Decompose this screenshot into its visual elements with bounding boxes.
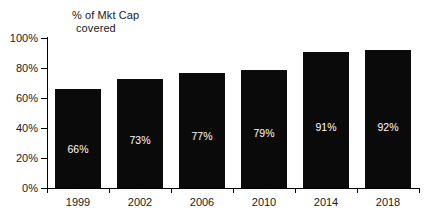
x-axis-tick: [295, 188, 296, 193]
x-axis-tick: [357, 188, 358, 193]
x-axis-label-2010: 2010: [252, 196, 276, 208]
chart-title-line-1: % of Mkt Cap: [72, 9, 139, 21]
bar-value-label: 73%: [117, 134, 163, 146]
y-axis-label: 60%: [0, 92, 38, 104]
y-axis-label: 80%: [0, 62, 38, 74]
chart-title: % of Mkt Cap covered: [72, 9, 139, 35]
x-axis-label-2014: 2014: [314, 196, 338, 208]
y-axis-label: 100%: [0, 32, 38, 44]
x-axis-label-2002: 2002: [128, 196, 152, 208]
x-axis-tick: [109, 188, 110, 193]
bar-2002[interactable]: 73%: [117, 79, 163, 189]
bar-2010[interactable]: 79%: [241, 70, 287, 189]
x-axis-tick: [171, 188, 172, 193]
bar-value-label: 79%: [241, 127, 287, 139]
bar-2006[interactable]: 77%: [179, 73, 225, 189]
bar-1999[interactable]: 66%: [55, 89, 101, 188]
y-axis-label: 40%: [0, 122, 38, 134]
x-axis-label-1999: 1999: [66, 196, 90, 208]
bar-value-label: 77%: [179, 130, 225, 142]
bar-2014[interactable]: 91%: [303, 52, 349, 189]
bar-value-label: 92%: [365, 121, 411, 133]
y-axis-label: 20%: [0, 152, 38, 164]
bar-2018[interactable]: 92%: [365, 50, 411, 188]
x-axis-tick: [419, 188, 420, 193]
x-axis-label-2006: 2006: [190, 196, 214, 208]
x-axis-label-2018: 2018: [376, 196, 400, 208]
bar-value-label: 66%: [55, 143, 101, 155]
y-axis-label: 0%: [0, 182, 38, 194]
x-axis-tick: [233, 188, 234, 193]
bar-chart: % of Mkt Cap covered 0%20%40%60%80%100% …: [0, 0, 427, 220]
bar-value-label: 91%: [303, 121, 349, 133]
plot-area: 66%73%77%79%91%92%: [47, 38, 419, 188]
chart-title-line-2: covered: [76, 22, 139, 35]
x-axis-tick: [47, 188, 48, 193]
